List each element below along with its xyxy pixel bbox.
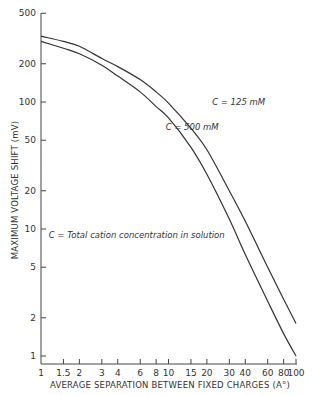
x-tick-label: 100 bbox=[287, 368, 304, 378]
x-tick-label: 2 bbox=[77, 368, 83, 378]
series-label-500mm: C = 500 mM bbox=[166, 122, 220, 132]
x-tick-label: 20 bbox=[201, 368, 213, 378]
x-tick-label: 10 bbox=[163, 368, 175, 378]
x-tick-label: 15 bbox=[185, 368, 196, 378]
y-tick-label: 5 bbox=[30, 262, 36, 272]
y-tick-label: 2 bbox=[30, 313, 36, 323]
x-tick-label: 1 bbox=[38, 368, 44, 378]
x-tick-label: 6 bbox=[137, 368, 143, 378]
y-tick-label: 50 bbox=[25, 135, 37, 145]
x-tick-label: 40 bbox=[240, 368, 252, 378]
y-tick-label: 100 bbox=[19, 97, 36, 107]
y-tick-label: 10 bbox=[25, 224, 37, 234]
y-tick-label: 200 bbox=[19, 59, 36, 69]
series-label-125mm: C = 125 mM bbox=[212, 97, 266, 107]
x-tick-label: 1.5 bbox=[56, 368, 70, 378]
y-tick-label: 500 bbox=[19, 8, 36, 18]
y-tick-label: 20 bbox=[25, 186, 37, 196]
x-tick-label: 3 bbox=[99, 368, 105, 378]
series-line-1 bbox=[41, 41, 296, 356]
x-tick-label: 8 bbox=[153, 368, 159, 378]
concentration-note: C = Total cation concentration in soluti… bbox=[49, 230, 225, 240]
y-axis-title: MAXIMUM VOLTAGE SHIFT (mV) bbox=[10, 121, 20, 260]
series-lines bbox=[41, 36, 296, 356]
y-ticks: 125102050100200500 bbox=[19, 8, 46, 361]
x-ticks: 11.52346810152030406080100 bbox=[38, 359, 305, 378]
x-tick-label: 30 bbox=[224, 368, 236, 378]
y-tick-label: 1 bbox=[30, 351, 36, 361]
x-tick-label: 60 bbox=[262, 368, 274, 378]
axes bbox=[41, 13, 297, 364]
x-axis-title: AVERAGE SEPARATION BETWEEN FIXED CHARGES… bbox=[50, 380, 290, 390]
x-tick-label: 4 bbox=[115, 368, 121, 378]
chart: 125102050100200500 11.523468101520304060… bbox=[0, 0, 313, 395]
